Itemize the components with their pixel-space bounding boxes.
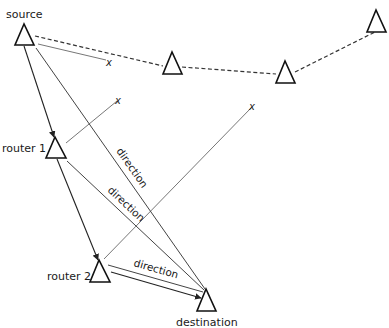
dashed-edge-source-relay1 [35, 36, 163, 66]
routing-diagram: x x x source router 1 router 2 destinati… [0, 0, 389, 328]
node-relay1-triangle [163, 52, 182, 74]
node-router2-triangle [90, 260, 110, 282]
label-router2: router 2 [47, 270, 91, 283]
route-path [24, 46, 201, 298]
blocked-line-router2 [104, 108, 251, 259]
blocked-line-source [38, 44, 106, 60]
dashed-edge-relay1-relay2 [182, 67, 276, 74]
edge-router2-destination [111, 272, 201, 298]
node-relay3-triangle [367, 10, 386, 32]
label-source: source [6, 8, 43, 21]
blocked-mark-router2: x [248, 101, 255, 112]
dashed-relay-chain [35, 32, 375, 74]
blocked-paths [38, 44, 251, 259]
edge-router1-router2 [57, 159, 98, 260]
edge-source-router1 [24, 46, 54, 137]
node-destination-triangle [197, 289, 216, 311]
blocked-mark-source: x [105, 57, 112, 68]
label-router1: router 1 [2, 142, 46, 155]
node-router1-triangle [46, 137, 66, 158]
node-source-triangle [15, 24, 34, 45]
blocked-line-router1 [66, 101, 117, 143]
dashed-edge-relay2-relay3 [295, 32, 375, 72]
label-destination: destination [176, 316, 238, 328]
node-relay2-triangle [276, 61, 295, 83]
blocked-mark-router1: x [114, 95, 121, 106]
